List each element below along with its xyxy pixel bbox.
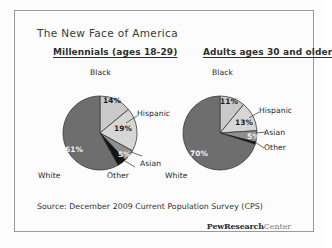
pew-research-center-logo: PewResearchCenter [207, 221, 291, 231]
page-title: The New Face of America [37, 27, 178, 39]
pie-value-black-right: 11% [220, 97, 238, 106]
logo-text-pewresearch: PewResearch [207, 221, 264, 231]
chart-title-adults: Adults ages 30 and older [203, 47, 332, 57]
pie-chart-adults: Black Hispanic Asian Other White 11% 13%… [163, 66, 313, 196]
pie-value-black-left: 14% [103, 96, 121, 105]
pie-value-asian-left: 5% [118, 150, 131, 159]
pie-label-hispanic-right: Hispanic [259, 106, 292, 115]
figure-frame: The New Face of America Millennials (age… [14, 10, 314, 232]
pie-label-white-right: White [165, 171, 188, 180]
source-note: Source: December 2009 Current Population… [37, 202, 263, 211]
pie-label-white-left: White [38, 171, 61, 180]
pie-chart-millennials: Black Hispanic Asian Other White 14% 19%… [27, 66, 177, 196]
pie-value-asian-right: 5% [247, 132, 260, 141]
pie-value-white-left: 61% [65, 145, 83, 154]
pie-label-asian-right: Asian [264, 128, 285, 137]
pie-label-black-left: Black [90, 68, 111, 77]
chart-title-millennials: Millennials (ages 18-29) [53, 47, 177, 57]
pie-value-hispanic-left: 19% [114, 124, 132, 133]
pie-value-white-right: 70% [190, 149, 208, 158]
pie-label-black-right: Black [212, 68, 233, 77]
pie-value-hispanic-right: 13% [235, 118, 253, 127]
logo-text-center: Center [264, 222, 291, 231]
pie-label-other-left: Other [107, 171, 129, 180]
pie-label-other-right: Other [264, 143, 286, 152]
pie-label-asian-left: Asian [140, 159, 161, 168]
